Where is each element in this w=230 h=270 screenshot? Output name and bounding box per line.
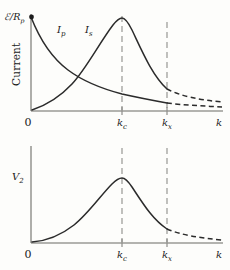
physics-figure: ℰ/Rp Ip Is Current 0 kc kx k V2 0 kc <box>0 0 230 270</box>
curve-label-ip: Ip <box>56 24 66 38</box>
top-xtick-kx: kx <box>162 117 172 131</box>
curve-label-is: Is <box>84 24 93 38</box>
bottom-xtick-0: 0 <box>25 248 32 261</box>
bottom-xtick-kx: kx <box>162 249 172 263</box>
curve-ip-dashed <box>167 103 222 107</box>
intercept-dot <box>29 15 34 20</box>
top-panel: ℰ/Rp Ip Is Current 0 kc kx k <box>4 11 223 131</box>
curve-v2-solid <box>32 178 167 242</box>
curve-v2-dashed <box>167 229 222 240</box>
top-xtick-0: 0 <box>25 116 32 129</box>
top-xtick-kc: kc <box>117 117 127 131</box>
top-y-axis-label: Current <box>10 42 22 86</box>
bottom-xtick-k: k <box>216 249 222 260</box>
bottom-xtick-kc: kc <box>117 249 127 263</box>
curve-is-solid <box>32 18 167 110</box>
bottom-panel: V2 0 kc kx k <box>12 146 223 263</box>
intercept-label: ℰ/Rp <box>4 11 25 25</box>
bottom-y-axis-label: V2 <box>12 171 24 185</box>
top-xtick-k: k <box>216 117 222 128</box>
curve-is-dashed <box>167 89 222 102</box>
